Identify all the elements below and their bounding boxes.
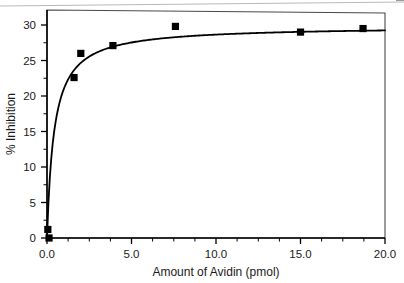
y-tick-label: 20	[23, 90, 36, 102]
chart-background	[0, 0, 404, 283]
x-axis-label: Amount of Avidin (pmol)	[152, 265, 279, 279]
data-point	[109, 42, 116, 49]
y-tick-label: 15	[23, 126, 36, 138]
data-point	[45, 234, 52, 241]
chart-figure: 0 5 10 15 20 25 30 0.0 5.0 10.0 15.0 20.…	[0, 0, 404, 283]
y-tick-label: 10	[23, 161, 36, 173]
chart-svg: 0 5 10 15 20 25 30 0.0 5.0 10.0 15.0 20.…	[0, 0, 404, 283]
y-tick-label: 0	[30, 232, 36, 244]
x-tick-label: 10.0	[205, 248, 227, 260]
x-tick-label: 15.0	[289, 248, 311, 260]
y-tick-label: 5	[30, 197, 36, 209]
data-point	[44, 226, 51, 233]
x-tick-label: 0.0	[39, 248, 55, 260]
data-point	[297, 29, 304, 36]
data-point	[172, 23, 179, 30]
x-tick-label: 5.0	[124, 248, 140, 260]
data-point	[70, 74, 77, 81]
y-tick-label: 30	[23, 19, 36, 31]
data-point	[77, 50, 84, 57]
data-point	[359, 25, 366, 32]
y-tick-label: 25	[23, 55, 36, 67]
x-tick-label: 20.0	[374, 248, 396, 260]
y-axis-label: % Inhibition	[4, 93, 18, 155]
